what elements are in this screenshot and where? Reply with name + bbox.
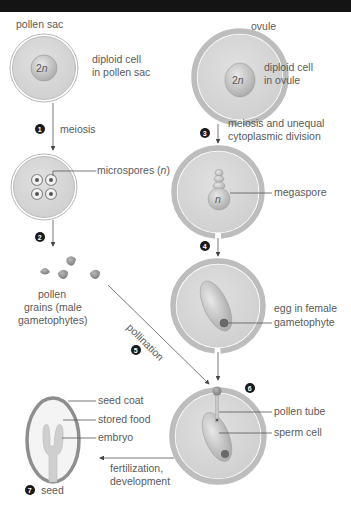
step-2-badge: 2 bbox=[35, 232, 45, 242]
megaspore-label: megaspore bbox=[274, 186, 327, 198]
nucleus-n-label: n bbox=[42, 62, 48, 74]
seed-label: seed bbox=[41, 484, 64, 496]
step-4-badge: 4 bbox=[200, 241, 210, 251]
ovule-egg-cell bbox=[173, 261, 263, 351]
egg-label-1: egg in female bbox=[274, 302, 337, 314]
pollen-tube-label: pollen tube bbox=[274, 405, 326, 417]
step-2-number: 2 bbox=[38, 234, 42, 241]
sperm-cell-label: sperm cell bbox=[274, 426, 322, 438]
step-5-badge: 5 bbox=[131, 345, 141, 355]
microspores-close: ) bbox=[166, 164, 170, 176]
pollination-label: pollination bbox=[125, 321, 167, 363]
pollen-sac-cell: 2n bbox=[10, 34, 78, 102]
step-3-label-1: meiosis and unequal bbox=[228, 117, 324, 129]
microspores-text: microspores ( bbox=[97, 164, 161, 176]
diploid-ovule-label-2: in ovule bbox=[264, 74, 300, 86]
ovule-label: ovule bbox=[251, 20, 276, 32]
ovule-fertilization-cell bbox=[172, 387, 264, 483]
embryo-label: embryo bbox=[98, 431, 133, 443]
ovule-megaspore-cell: n bbox=[174, 148, 262, 236]
microspores-cell bbox=[11, 154, 77, 220]
pollen-grains-label-1: pollen bbox=[38, 288, 66, 300]
diploid-pollen-label-2: in pollen sac bbox=[92, 66, 150, 78]
pollen-tube bbox=[216, 392, 219, 422]
egg bbox=[220, 319, 228, 327]
diploid-ovule-label-1: diploid cell bbox=[264, 61, 313, 73]
degenerating-cells bbox=[213, 170, 225, 191]
step-4-number: 4 bbox=[203, 243, 207, 250]
pollen-sac-label: pollen sac bbox=[16, 18, 63, 30]
pollen-grains-label-2: grains (male bbox=[24, 301, 82, 313]
svg-text:2n: 2n bbox=[232, 74, 244, 86]
diploid-pollen-label-1: diploid cell bbox=[92, 53, 141, 65]
fertilization-label-1: fertilization, bbox=[110, 462, 163, 474]
step-6-badge: 6 bbox=[245, 383, 255, 393]
step-1-badge: 1 bbox=[35, 124, 45, 134]
step-7-badge: 7 bbox=[25, 485, 35, 495]
step-6-number: 6 bbox=[248, 385, 252, 392]
step-3-badge: 3 bbox=[200, 128, 210, 138]
pollen-grains bbox=[40, 256, 100, 279]
megaspore-n-label: n bbox=[215, 193, 221, 205]
step-1-number: 1 bbox=[38, 126, 42, 133]
stored-food-label: stored food bbox=[98, 413, 151, 425]
sperm-cell bbox=[216, 419, 219, 422]
seed-coat-label: seed coat bbox=[98, 394, 144, 406]
step-7-number: 7 bbox=[28, 487, 32, 494]
seed-diagram bbox=[27, 398, 79, 482]
egg-label-2: gametophyte bbox=[274, 316, 335, 328]
ovule-nucleus-n: n bbox=[238, 74, 244, 86]
pollen-grains-label-3: gametophytes) bbox=[18, 314, 87, 326]
life-cycle-diagram: pollen sac 2n diploid cell in pollen sac… bbox=[0, 0, 351, 515]
fertilization-label-2: development bbox=[110, 475, 170, 487]
svg-text:2n: 2n bbox=[36, 62, 48, 74]
microspores-label: microspores (n) bbox=[97, 164, 170, 176]
meiosis-label: meiosis bbox=[60, 123, 96, 135]
egg-2 bbox=[221, 450, 229, 458]
figure-caption-cropped bbox=[12, 507, 342, 515]
step-3-number: 3 bbox=[203, 130, 207, 137]
step-5-number: 5 bbox=[134, 347, 138, 354]
step-3-label-2: cytoplasmic division bbox=[228, 130, 321, 142]
pollen-grain-on-ovule bbox=[213, 387, 222, 396]
